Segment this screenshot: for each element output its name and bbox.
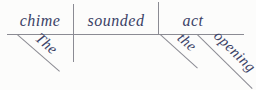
sentence-diagram: chime sounded act The the opening xyxy=(0,0,256,90)
verb-word: sounded xyxy=(74,10,158,32)
